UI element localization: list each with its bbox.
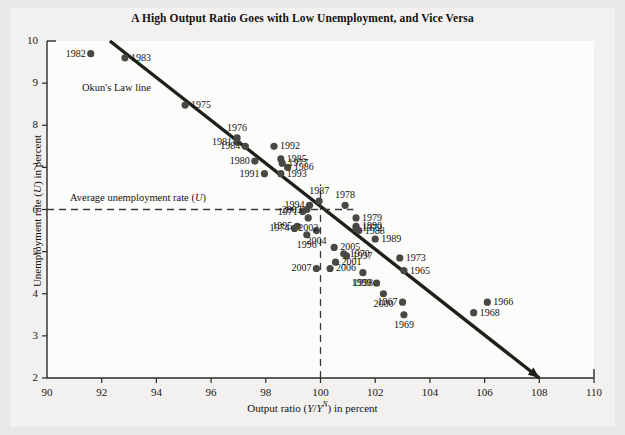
data-point[interactable] [305, 214, 312, 221]
data-point[interactable] [326, 265, 333, 272]
data-point-label: 1965 [410, 266, 430, 276]
data-point-label: 2002 [298, 223, 318, 233]
average-unemployment-annotation: Average unemployment rate (U) [70, 192, 206, 203]
data-point[interactable] [400, 311, 407, 318]
data-point-label: 1968 [480, 308, 500, 318]
data-point[interactable] [242, 143, 249, 150]
x-tick-label: 108 [519, 386, 559, 398]
x-tick-label: 98 [246, 386, 286, 398]
data-point-label: 1983 [131, 53, 151, 63]
x-tick-label: 102 [355, 386, 395, 398]
data-point-label: 1969 [394, 320, 414, 330]
data-point[interactable] [121, 54, 128, 61]
x-axis-title: Output ratio (Y/YN) in percent [0, 400, 625, 414]
data-point-label: 1974 [270, 223, 290, 233]
y-axis-title: Unemployment rate (U) in percent [31, 86, 43, 336]
data-point[interactable] [373, 280, 380, 287]
chart-canvas [0, 0, 625, 435]
data-point-label: 1989 [381, 234, 401, 244]
data-point[interactable] [470, 309, 477, 316]
x-tick-label: 100 [301, 386, 341, 398]
x-tick-label: 104 [410, 386, 450, 398]
data-point[interactable] [251, 157, 258, 164]
data-point[interactable] [270, 143, 277, 150]
data-point[interactable] [313, 265, 320, 272]
data-point-label: 1997 [352, 251, 372, 261]
data-point-label: 2004 [306, 236, 326, 246]
data-point-label: 1992 [280, 141, 300, 151]
data-point[interactable] [331, 244, 338, 251]
data-point-label: 1976 [227, 123, 247, 133]
data-point-label: 1966 [493, 297, 513, 307]
data-point-label: 1973 [406, 253, 426, 263]
data-point-label: 1967 [378, 297, 398, 307]
data-point[interactable] [399, 299, 406, 306]
data-point-label: 1984 [220, 141, 240, 151]
x-tick-label: 90 [27, 386, 67, 398]
data-point[interactable] [400, 267, 407, 274]
data-point-label: 1980 [230, 156, 250, 166]
data-point[interactable] [396, 254, 403, 261]
data-point[interactable] [87, 50, 94, 57]
data-point-label: 1993 [287, 169, 307, 179]
data-point-label: 1982 [66, 49, 86, 59]
data-point-label: 1999 [352, 278, 372, 288]
data-point[interactable] [484, 299, 491, 306]
data-point[interactable] [182, 101, 189, 108]
data-point-label: 2007 [291, 263, 311, 273]
data-point[interactable] [359, 269, 366, 276]
data-point-label: 1987 [309, 186, 329, 196]
x-tick-label: 110 [574, 386, 614, 398]
x-tick-label: 106 [465, 386, 505, 398]
okun-law-annotation: Okun's Law line [82, 82, 151, 93]
data-point-label: 1991 [239, 169, 259, 179]
data-point-label: 1978 [335, 190, 355, 200]
data-point-label: 1975 [191, 100, 211, 110]
data-point[interactable] [342, 202, 349, 209]
x-tick-label: 92 [82, 386, 122, 398]
figure-root: A High Output Ratio Goes with Low Unempl… [0, 0, 625, 435]
data-point[interactable] [372, 235, 379, 242]
data-point-label: 1971 [278, 207, 298, 217]
y-tick-label: 2 [0, 371, 38, 383]
x-tick-label: 94 [136, 386, 176, 398]
data-point[interactable] [352, 214, 359, 221]
data-point[interactable] [316, 197, 323, 204]
data-point[interactable] [261, 170, 268, 177]
data-point[interactable] [277, 170, 284, 177]
y-tick-label: 10 [0, 34, 38, 46]
x-tick-label: 96 [191, 386, 231, 398]
